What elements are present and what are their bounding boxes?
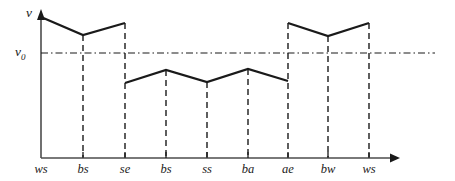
x-axis-arrow-icon: [390, 154, 400, 163]
x-axis-ticks: [83, 152, 369, 158]
x-tick-label-bs-1: bs: [77, 163, 88, 176]
series-line-autumn-winter-high: [288, 23, 369, 36]
x-tick-label-bw: bw: [321, 163, 336, 176]
x-tick-label-ws-2: ws: [362, 163, 375, 176]
v0-label-subscript: 0: [21, 52, 26, 62]
x-tick-label-bs-2: bs: [160, 163, 171, 176]
x-tick-label-ss: ss: [202, 163, 212, 176]
x-tick-label-ws-1: ws: [34, 163, 47, 176]
v0-reference-label: v0: [15, 45, 26, 62]
y-axis-label: v: [26, 6, 32, 20]
x-tick-label-se: se: [120, 163, 130, 176]
series-line-winter-spring-high: [41, 17, 125, 35]
x-tick-label-ae: ae: [282, 163, 294, 176]
plot-canvas: [0, 0, 455, 181]
velocity-schedule-figure: v v0 ws bs se bs ss ba ae bw ws: [0, 0, 455, 181]
x-tick-label-ba: ba: [242, 163, 255, 176]
series-line-summer-low: [125, 69, 288, 83]
season-boundary-lines: [83, 23, 369, 157]
